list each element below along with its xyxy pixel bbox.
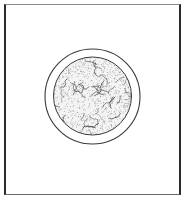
dish-diagram: [0, 0, 191, 198]
